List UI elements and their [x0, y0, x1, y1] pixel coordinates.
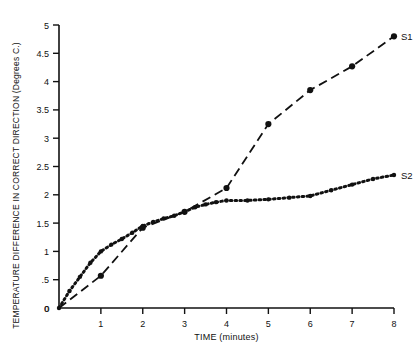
data-point-s2 — [130, 231, 134, 235]
axes-group — [59, 25, 394, 308]
y-tick-label: .5 — [41, 275, 49, 285]
x-tick-label: 2 — [140, 319, 145, 329]
data-point-s2 — [109, 242, 113, 246]
series-line-s1 — [59, 36, 394, 308]
data-point-s1 — [391, 33, 397, 39]
y-tick-label: 0 — [44, 304, 49, 314]
x-tick-label: 3 — [182, 319, 187, 329]
y-axis-title: TEMPERATURE DIFFERENCE IN CORRECT DIRECT… — [8, 8, 24, 355]
series-label-s2: S2 — [401, 170, 413, 181]
y-tick-label: 4 — [44, 77, 49, 87]
data-point-s2 — [182, 210, 186, 214]
y-axis-ticks: 0.511.522.533.544.55 — [36, 21, 59, 314]
data-point-s2 — [161, 216, 165, 220]
data-point-s1 — [223, 185, 229, 191]
series-label-s1: S1 — [401, 31, 413, 42]
y-tick-label: 1.5 — [36, 219, 49, 229]
data-point-s2 — [266, 197, 270, 201]
y-tick-label: 2.5 — [36, 162, 49, 172]
series-end-labels: S1S2 — [401, 31, 413, 181]
data-point-s2 — [224, 198, 228, 202]
data-point-s2 — [287, 195, 291, 199]
data-point-s1 — [98, 273, 104, 279]
data-point-s2 — [371, 177, 375, 181]
data-point-s2 — [78, 275, 82, 279]
data-point-s2 — [308, 194, 312, 198]
data-point-s2 — [245, 198, 249, 202]
x-tick-label: 7 — [350, 319, 355, 329]
data-point-s2 — [99, 249, 103, 253]
x-axis-title: TIME (minutes) — [59, 332, 394, 342]
data-point-s2 — [172, 214, 176, 218]
chart-plot-area: 012345678 0.511.522.533.544.55 S1S2 — [0, 0, 420, 355]
y-tick-label: 5 — [44, 21, 49, 31]
x-tick-label: 1 — [98, 319, 103, 329]
chart-container: 012345678 0.511.522.533.544.55 S1S2 TEMP… — [0, 0, 420, 355]
data-point-s2 — [120, 237, 124, 241]
data-point-s2 — [214, 200, 218, 204]
y-tick-label: 2 — [44, 190, 49, 200]
data-point-s2 — [88, 261, 92, 265]
data-point-s1 — [265, 121, 271, 127]
data-point-s2 — [350, 182, 354, 186]
y-tick-label: 1 — [44, 247, 49, 257]
x-tick-label: 4 — [224, 319, 229, 329]
data-point-s1 — [349, 63, 355, 69]
data-point-s2 — [141, 224, 145, 228]
x-tick-label: 6 — [308, 319, 313, 329]
y-tick-label: 4.5 — [36, 49, 49, 59]
data-point-s2 — [151, 220, 155, 224]
data-point-s2 — [57, 306, 61, 310]
data-point-s2 — [392, 173, 396, 177]
data-series-group — [57, 33, 397, 310]
y-tick-label: 3.5 — [36, 105, 49, 115]
data-point-s2 — [329, 188, 333, 192]
series-line-s2 — [59, 175, 394, 308]
data-point-s1 — [307, 87, 313, 93]
data-point-s2 — [193, 205, 197, 209]
data-point-s2 — [203, 202, 207, 206]
x-tick-label: 5 — [266, 319, 271, 329]
y-tick-label: 3 — [44, 134, 49, 144]
data-point-s2 — [67, 289, 71, 293]
x-tick-label: 8 — [391, 319, 396, 329]
